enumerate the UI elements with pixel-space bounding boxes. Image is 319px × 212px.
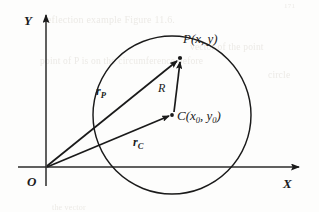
- point-c-label: C(x0, y0): [177, 109, 221, 122]
- vector-r-c-label-sub: C: [138, 141, 144, 151]
- figure-root: 171 leflection example Figure 11.6. poin…: [0, 0, 319, 212]
- point-c-label-sub-2: 0: [212, 115, 216, 125]
- vector-diagram-canvas: [0, 0, 319, 212]
- point-c-label-sub-1: 0: [196, 115, 200, 125]
- y-axis-label: Y: [24, 14, 32, 27]
- point-p-label-name: P: [183, 31, 191, 46]
- origin-label: O: [27, 175, 36, 188]
- point-c-label-name: C: [177, 108, 186, 123]
- vector-r-p-line: [47, 61, 177, 166]
- vector-r-c-line: [47, 116, 169, 167]
- vector-r-c-label: rC: [133, 136, 143, 148]
- vector-r-p-label-sub: P: [101, 90, 106, 100]
- point-p-label-args: (x, y): [191, 31, 218, 46]
- radius-label: R: [158, 82, 165, 94]
- vector-r-p-label: rP: [96, 85, 106, 97]
- vector-r-p-label-main: r: [96, 84, 101, 98]
- point-p-label: P(x, y): [183, 32, 218, 45]
- point-c-label-args-mid: , y: [200, 108, 212, 123]
- point-c-label-args-post: ): [217, 108, 221, 123]
- point-c-dot: [170, 113, 174, 117]
- point-c-label-args-pre: (x: [186, 108, 196, 123]
- x-axis-label: X: [283, 177, 292, 190]
- vector-radius-line: [174, 62, 180, 112]
- vector-r-c-label-main: r: [133, 135, 138, 149]
- point-p-dot: [178, 56, 182, 60]
